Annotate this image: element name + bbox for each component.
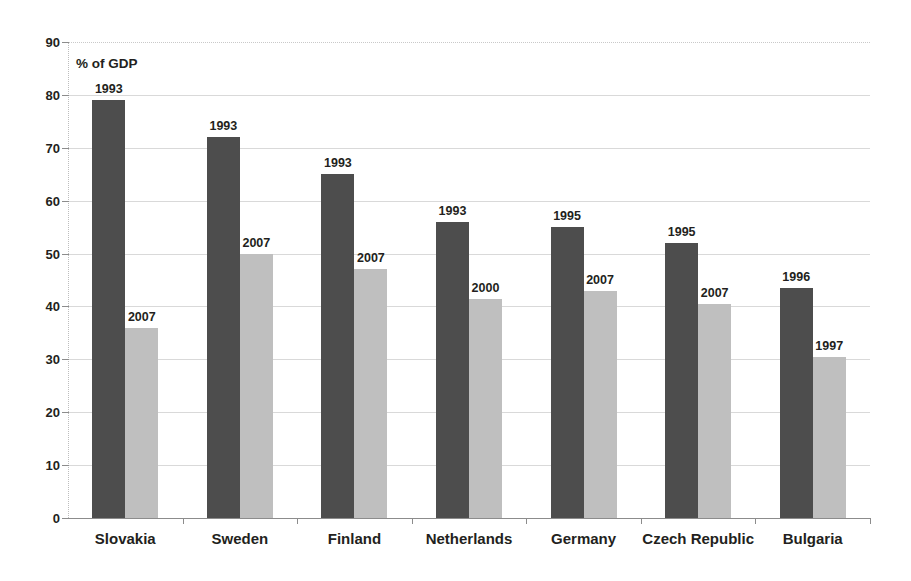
bar-value-label: 2007: [701, 286, 729, 300]
gridline: [68, 254, 870, 255]
y-tick-mark: [62, 42, 69, 43]
y-tick-label: 60: [20, 194, 60, 207]
bar-value-label: 2007: [357, 251, 385, 265]
bar: [436, 222, 469, 518]
y-tick-label: 0: [20, 512, 60, 525]
bar-value-label: 1993: [209, 119, 237, 133]
x-tick-mark: [412, 518, 413, 524]
x-tick-mark: [183, 518, 184, 524]
bar-value-label: 1993: [95, 82, 123, 96]
y-tick-mark: [62, 148, 69, 149]
bar-value-label: 2007: [242, 236, 270, 250]
x-category-label: Sweden: [212, 530, 269, 547]
y-tick-label: 40: [20, 300, 60, 313]
y-tick-mark: [62, 306, 69, 307]
plot-area: 1993200719932007199320071993200019952007…: [68, 42, 870, 518]
bar: [207, 137, 240, 518]
x-tick-mark: [755, 518, 756, 524]
gridline: [68, 42, 870, 43]
bar: [240, 254, 273, 518]
bar: [584, 291, 617, 518]
y-tick-label: 50: [20, 247, 60, 260]
y-tick-label: 80: [20, 88, 60, 101]
y-tick-mark: [62, 465, 69, 466]
x-category-label: Bulgaria: [783, 530, 843, 547]
y-tick-label: 90: [20, 36, 60, 49]
bar-value-label: 1997: [815, 339, 843, 353]
bar: [665, 243, 698, 518]
bar-value-label: 2000: [472, 281, 500, 295]
x-category-label: Czech Republic: [642, 530, 754, 547]
y-tick-label: 70: [20, 141, 60, 154]
bar: [780, 288, 813, 518]
x-tick-mark: [526, 518, 527, 524]
y-axis: 0102030405060708090: [10, 0, 60, 581]
x-category-label: Netherlands: [426, 530, 513, 547]
bar-chart: 0102030405060708090 19932007199320071993…: [0, 0, 911, 581]
y-tick-mark: [62, 201, 69, 202]
bar-value-label: 2007: [128, 310, 156, 324]
bar-value-label: 1996: [782, 270, 810, 284]
bar: [354, 269, 387, 518]
y-tick-label: 20: [20, 406, 60, 419]
bar-value-label: 1993: [439, 204, 467, 218]
x-tick-mark: [641, 518, 642, 524]
bar: [92, 100, 125, 518]
x-tick-mark: [870, 518, 871, 524]
bar: [125, 328, 158, 518]
y-tick-label: 10: [20, 459, 60, 472]
gridline: [68, 148, 870, 149]
bar: [469, 299, 502, 518]
bar-value-label: 1995: [668, 225, 696, 239]
x-axis-line: [68, 518, 870, 519]
bar: [551, 227, 584, 518]
y-tick-mark: [62, 254, 69, 255]
bar-value-label: 1995: [553, 209, 581, 223]
bar: [698, 304, 731, 518]
y-tick-label: 30: [20, 353, 60, 366]
gridline: [68, 201, 870, 202]
y-tick-mark: [62, 359, 69, 360]
x-tick-mark: [297, 518, 298, 524]
y-tick-mark: [62, 95, 69, 96]
y-tick-mark: [62, 412, 69, 413]
x-category-label: Germany: [551, 530, 616, 547]
bar-value-label: 1993: [324, 156, 352, 170]
bar: [813, 357, 846, 518]
x-category-label: Slovakia: [95, 530, 156, 547]
gridline: [68, 95, 870, 96]
x-category-label: Finland: [328, 530, 381, 547]
axis-title: % of GDP: [76, 56, 138, 71]
bar-value-label: 2007: [586, 273, 614, 287]
bar: [321, 174, 354, 518]
y-tick-mark: [62, 518, 69, 519]
